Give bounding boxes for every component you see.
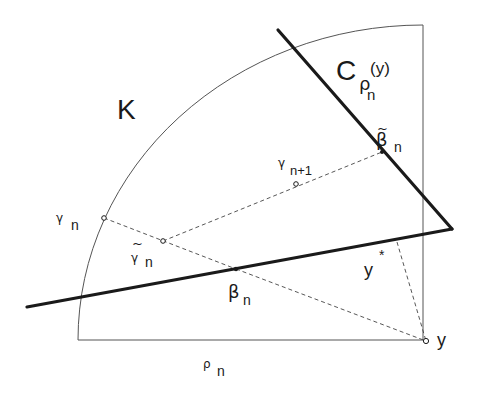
svg-text:(y): (y) [370, 59, 390, 78]
label-y: y [437, 330, 446, 350]
cone-edge-lower [27, 229, 452, 307]
svg-text:β: β [376, 129, 388, 150]
point-gamma-tilde-n [161, 239, 166, 244]
point-y [423, 338, 428, 343]
svg-text:γ: γ [278, 156, 285, 170]
svg-text:γ: γ [56, 211, 63, 225]
label-gamma-n: γ n [56, 211, 79, 233]
svg-text:*: * [379, 247, 385, 263]
point-gamma-n1 [294, 182, 299, 187]
label-K: K [117, 94, 136, 125]
svg-text:y: y [364, 260, 373, 280]
cone-edge-upper [278, 30, 452, 229]
point-gamma-n [102, 216, 107, 221]
svg-text:n: n [243, 292, 251, 308]
svg-text:n: n [71, 217, 79, 233]
dash-gamma-tilde-to-beta-tilde [163, 152, 382, 241]
diagram-canvas: K C ρ (y) n ~ β n γ n+1 γ n ~ γ n β n y … [0, 0, 486, 395]
svg-text:n: n [394, 139, 402, 155]
label-beta-tilde-n: ~ β n [376, 121, 402, 155]
svg-text:n: n [145, 254, 153, 270]
svg-text:n: n [367, 86, 375, 103]
label-rho-n: ρ n [203, 357, 225, 379]
label-gamma-tilde-n: ~ γ n [131, 236, 153, 270]
label-beta-n: β n [228, 281, 251, 308]
svg-text:γ: γ [131, 251, 138, 265]
dash-ystar-to-y [397, 242, 426, 341]
point-beta-tilde-n [380, 150, 384, 154]
dash-beta-n-to-y [236, 269, 426, 341]
label-gamma-n1: γ n+1 [278, 156, 312, 178]
svg-text:n: n [217, 363, 225, 379]
point-beta-n [234, 267, 238, 271]
svg-text:~: ~ [132, 236, 143, 251]
label-cone: C ρ (y) n [336, 55, 390, 103]
svg-text:C: C [336, 55, 356, 86]
svg-text:ρ: ρ [203, 357, 211, 371]
label-y-star: y * [364, 247, 385, 280]
dash-gamma-n-to-beta-n [104, 218, 236, 269]
svg-text:β: β [228, 281, 240, 302]
svg-text:n+1: n+1 [290, 163, 312, 178]
